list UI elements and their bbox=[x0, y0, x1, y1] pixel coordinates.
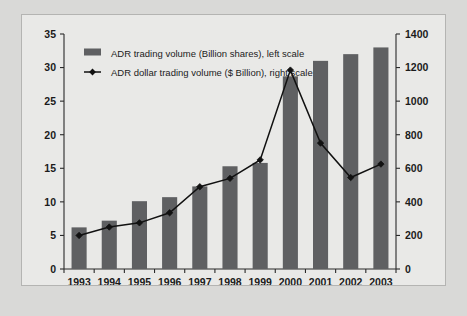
left-axis-tick-label: 10 bbox=[44, 196, 56, 208]
x-axis-tick-label: 1997 bbox=[188, 276, 212, 285]
legend-marker-dollar bbox=[89, 69, 96, 76]
figure: 0510152025303502004006008001000120014001… bbox=[0, 0, 467, 316]
bar-1995 bbox=[132, 201, 147, 269]
x-axis-tick-label: 2003 bbox=[369, 276, 393, 285]
bar-2002 bbox=[343, 54, 358, 269]
left-axis-tick-label: 25 bbox=[44, 95, 56, 107]
x-axis-tick-label: 1994 bbox=[98, 276, 122, 285]
plot-frame: 0510152025303502004006008001000120014001… bbox=[21, 14, 446, 286]
legend-label-dollar: ADR dollar trading volume ($ Billion), r… bbox=[111, 67, 313, 78]
bar-1997 bbox=[192, 186, 207, 269]
right-axis-tick-label: 1200 bbox=[405, 61, 429, 73]
left-axis-tick-label: 15 bbox=[44, 162, 56, 174]
right-axis-tick-label: 1400 bbox=[405, 28, 429, 40]
left-axis-tick-label: 35 bbox=[44, 28, 56, 40]
left-axis-tick-label: 20 bbox=[44, 129, 56, 141]
right-axis-tick-label: 200 bbox=[405, 229, 423, 241]
x-axis-tick-label: 1999 bbox=[249, 276, 273, 285]
legend-label-bars: ADR trading volume (Billion shares), lef… bbox=[111, 48, 304, 59]
x-axis-tick-label: 2001 bbox=[309, 276, 333, 285]
bar-1999 bbox=[253, 163, 268, 269]
chart-canvas: 0510152025303502004006008001000120014001… bbox=[22, 15, 445, 285]
right-axis-tick-label: 400 bbox=[405, 196, 423, 208]
left-axis-tick-label: 30 bbox=[44, 61, 56, 73]
left-axis-tick-label: 5 bbox=[50, 229, 56, 241]
right-axis-tick-label: 600 bbox=[405, 162, 423, 174]
right-axis-tick-label: 800 bbox=[405, 129, 423, 141]
right-axis-tick-label: 0 bbox=[405, 263, 411, 275]
bar-2001 bbox=[313, 61, 328, 269]
x-axis-tick-label: 2002 bbox=[339, 276, 363, 285]
legend-swatch-bars bbox=[84, 49, 101, 56]
x-axis-tick-label: 1996 bbox=[158, 276, 182, 285]
x-axis-tick-label: 1995 bbox=[128, 276, 152, 285]
bar-2000 bbox=[283, 76, 298, 269]
right-axis-tick-label: 1000 bbox=[405, 95, 429, 107]
x-axis-tick-label: 1993 bbox=[67, 276, 91, 285]
x-axis-tick-label: 2000 bbox=[279, 276, 303, 285]
x-axis-tick-label: 1998 bbox=[218, 276, 242, 285]
left-axis-tick-label: 0 bbox=[50, 263, 56, 275]
bar-2003 bbox=[373, 47, 388, 269]
